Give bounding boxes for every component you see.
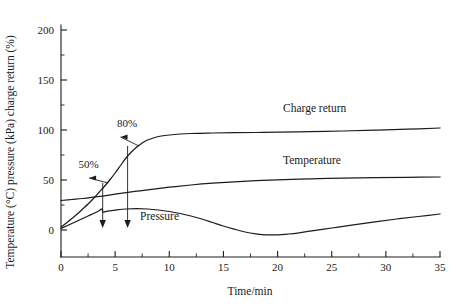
axis-ticks bbox=[61, 30, 440, 257]
x-tick-label: 35 bbox=[435, 261, 447, 273]
y-tick-label: 150 bbox=[38, 74, 55, 86]
series-line-temperature bbox=[61, 177, 440, 201]
y-axis-title: Temperature (°C) pressure (kPa) charge r… bbox=[4, 35, 17, 269]
axis-tick-labels: 05101520253035050100150200 bbox=[38, 24, 447, 273]
line-chart: 05101520253035050100150200 50%80% Charge… bbox=[0, 0, 464, 304]
data-series bbox=[61, 128, 440, 235]
chart-figure: 05101520253035050100150200 50%80% Charge… bbox=[0, 0, 464, 304]
annotation-80-percent-down-arrowhead bbox=[124, 220, 130, 228]
y-tick-label: 50 bbox=[43, 174, 55, 186]
y-tick-label: 0 bbox=[49, 224, 55, 236]
series-label-charge-return: Charge return bbox=[283, 102, 347, 115]
x-axis-title: Time/min bbox=[228, 285, 273, 297]
series-labels: Charge returnTemperaturePressure bbox=[140, 102, 347, 222]
series-label-temperature: Temperature bbox=[283, 154, 341, 167]
annotation-80-percent-text: 80% bbox=[117, 117, 137, 129]
series-label-pressure: Pressure bbox=[140, 210, 179, 222]
x-tick-label: 10 bbox=[164, 261, 176, 273]
x-tick-label: 25 bbox=[326, 261, 338, 273]
annotation-50-percent-left-arrowhead bbox=[89, 175, 96, 180]
y-tick-label: 200 bbox=[38, 24, 55, 36]
y-tick-label: 100 bbox=[38, 124, 55, 136]
annotation-50-percent-down-arrowhead bbox=[99, 220, 105, 228]
annotation-80-percent-leader bbox=[121, 137, 139, 146]
annotation-50-percent-text: 50% bbox=[79, 158, 99, 170]
x-tick-label: 0 bbox=[58, 261, 64, 273]
x-tick-label: 30 bbox=[380, 261, 392, 273]
axes bbox=[61, 25, 440, 257]
x-tick-label: 5 bbox=[112, 261, 118, 273]
x-tick-label: 20 bbox=[272, 261, 284, 273]
x-tick-label: 15 bbox=[218, 261, 230, 273]
series-line-pressure bbox=[61, 209, 440, 235]
